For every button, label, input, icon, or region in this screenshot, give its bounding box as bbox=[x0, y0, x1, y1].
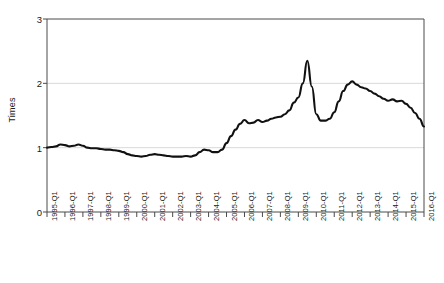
chart-container: Times 0123 1995-Q11996-Q11997-Q11998-Q11… bbox=[0, 0, 444, 283]
x-axis-tick-marks bbox=[47, 212, 424, 217]
plot-area bbox=[0, 0, 444, 283]
axis-lines bbox=[43, 19, 424, 212]
gridlines bbox=[47, 19, 424, 148]
data-series-line bbox=[47, 61, 424, 157]
